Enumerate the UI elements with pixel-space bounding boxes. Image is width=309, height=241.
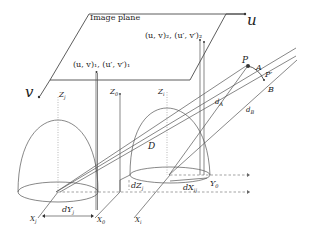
p-label: P: [241, 55, 249, 65]
zj-label: Zj: [58, 91, 66, 101]
ellipsoid-j: [18, 97, 98, 202]
stereo-geometry-diagram: Image plane u v (u, v)₁, (u′, v′)₁ (u, v…: [0, 0, 309, 241]
dxij-label: dXij: [183, 183, 197, 194]
xj-label: Xj: [29, 215, 37, 225]
z0-label: Z0: [109, 88, 119, 97]
v-axis-label: v: [25, 83, 34, 101]
point-1-label: (u, v)₁, (u′, v′)₁: [73, 60, 130, 69]
y0-label: Y0: [210, 179, 219, 189]
dyj-label: dYj: [62, 205, 74, 216]
x0-label: X0: [96, 216, 106, 225]
zi-label: Zi: [157, 88, 165, 97]
image-plane-label: Image plane: [90, 13, 141, 22]
b-label: B: [267, 85, 274, 94]
xi-label: Xi: [134, 216, 142, 225]
point-2-label: (u, v)₂, (u′, v′)₂: [145, 31, 202, 40]
db-label: dB: [246, 106, 254, 115]
ellipsoid-i: [130, 92, 210, 183]
p-prime-label: P′: [264, 70, 272, 79]
image-plane: [38, 13, 246, 98]
dzj-label: dZj: [131, 181, 144, 192]
u-axis-label: u: [247, 11, 257, 29]
da-label: dA: [215, 98, 223, 107]
a-label: A: [255, 63, 262, 72]
d-label: D: [147, 141, 155, 151]
